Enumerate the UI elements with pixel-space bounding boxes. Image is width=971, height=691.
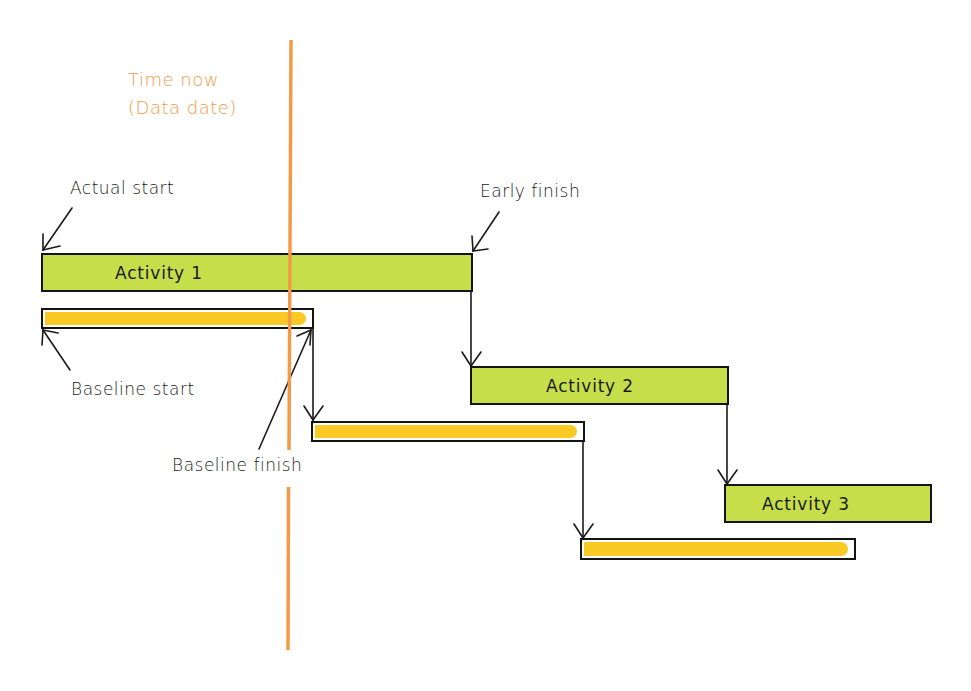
baseline-finish-label: Baseline finish bbox=[172, 455, 302, 475]
gantt-diagram: Activity 1 Activity 2 Activity 3 Time no… bbox=[0, 0, 971, 691]
data-date-label: Time now (Data date) bbox=[128, 66, 237, 122]
actual-start-label: Actual start bbox=[70, 178, 174, 198]
early-finish-label: Early finish bbox=[480, 181, 580, 201]
data-date-label-line2: (Data date) bbox=[128, 94, 237, 122]
data-date-label-line1: Time now bbox=[128, 66, 237, 94]
baseline-start-label: Baseline start bbox=[71, 379, 195, 399]
